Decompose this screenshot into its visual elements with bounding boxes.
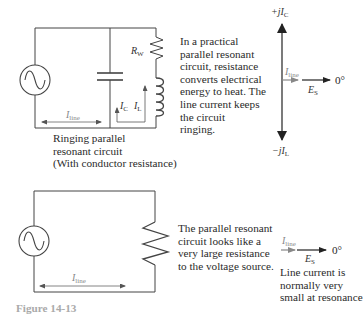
bottom-phasor-iline-label: Iline [282, 235, 296, 248]
bottom-phasor-angle: 0° [332, 244, 342, 257]
bottom-iline-label: Iline [72, 272, 86, 285]
ic-label: IC [120, 100, 128, 113]
top-description: In a practical parallel resonant circuit… [180, 35, 266, 136]
bottom-description: The parallel resonant circuit looks like… [178, 222, 274, 272]
top-circuit-caption: Ringing parallel resonant circuit (With … [53, 132, 177, 170]
bottom-circuit [34, 191, 168, 292]
bottom-phasor-note: Line current is normally very small at r… [280, 266, 363, 304]
minus-jil-label: −jIL [272, 145, 289, 158]
bottom-phasor-es-label: ES [305, 253, 315, 266]
il-label: IL [134, 100, 142, 113]
top-phasor-es-label: ES [308, 84, 318, 97]
top-phasor-diagram [282, 24, 330, 140]
plus-jic-label: +jIC [271, 6, 289, 19]
top-phasor-iline-label: Iline [285, 66, 299, 79]
ac-source-icon-bottom [19, 226, 49, 256]
figure-caption: Figure 14-13 [16, 302, 76, 315]
rw-label: RW [131, 45, 144, 58]
top-iline-label: Iline [66, 109, 80, 122]
top-circuit [35, 28, 164, 128]
ac-source-icon [20, 65, 50, 95]
top-phasor-angle: 0° [335, 74, 345, 87]
